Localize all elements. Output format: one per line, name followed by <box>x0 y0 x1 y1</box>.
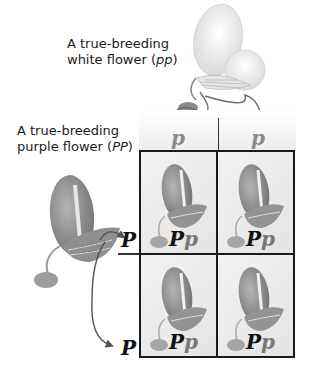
offspring-genotype: Pp <box>246 229 275 249</box>
dominant-allele: P <box>169 227 184 251</box>
dominant-allele: P <box>246 227 261 251</box>
purple-gamete-1: P <box>121 230 136 250</box>
offspring-genotype: Pp <box>246 332 275 352</box>
purple-parent-genotype: PP <box>112 139 128 154</box>
white-parent-label-line2: white flower (pp) <box>67 52 178 68</box>
purple-parent-label-line2: purple flower (PP) <box>17 139 133 155</box>
purple-gamete-2: P <box>121 338 136 358</box>
white-parent-text: white flower ( <box>67 52 156 67</box>
white-gamete-2: p <box>251 128 265 148</box>
punnett-cell: Pp <box>140 151 217 254</box>
recessive-allele: p <box>184 227 198 251</box>
punnett-cell: Pp <box>217 151 294 254</box>
purple-parent-text: purple flower ( <box>17 139 112 154</box>
row-indicator-line <box>118 253 140 255</box>
purple-parent-label-line1: A true-breeding <box>17 123 133 139</box>
recessive-allele: p <box>261 227 275 251</box>
white-parent-close: ) <box>173 52 178 67</box>
punnett-cell: Pp <box>217 254 294 357</box>
white-parent-label-line1: A true-breeding <box>67 36 178 52</box>
white-parent-genotype: pp <box>156 52 173 67</box>
purple-parent-label: A true-breeding purple flower (PP) <box>17 123 133 155</box>
punnett-square: Pp Pp Pp Pp <box>139 150 295 358</box>
dominant-allele: P <box>246 330 261 354</box>
white-gamete-1: p <box>171 128 185 148</box>
purple-parent-close: ) <box>128 139 133 154</box>
offspring-genotype: Pp <box>169 229 198 249</box>
recessive-allele: p <box>261 330 275 354</box>
white-parent-label: A true-breeding white flower (pp) <box>67 36 178 68</box>
dominant-allele: P <box>169 330 184 354</box>
header-divider <box>218 118 219 150</box>
recessive-allele: p <box>184 330 198 354</box>
offspring-genotype: Pp <box>169 332 198 352</box>
punnett-cell: Pp <box>140 254 217 357</box>
